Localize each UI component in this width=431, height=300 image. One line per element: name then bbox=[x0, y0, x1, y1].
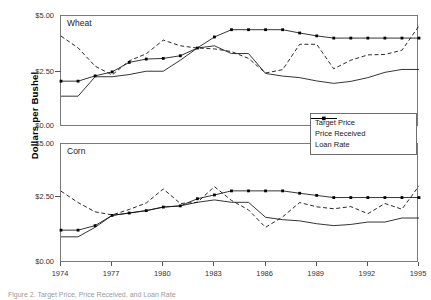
series-marker bbox=[401, 196, 404, 199]
xtick-mark-1977 bbox=[111, 262, 112, 266]
series-marker bbox=[366, 196, 369, 199]
ytick-wheat-0: $0.00 bbox=[18, 121, 54, 130]
series-marker bbox=[281, 189, 284, 192]
ytick-mark-wheat-2-5 bbox=[55, 71, 61, 72]
series-marker bbox=[332, 37, 335, 40]
legend-item-loan-rate: Loan Rate bbox=[315, 139, 411, 150]
chart-panel-wheat: Wheat bbox=[60, 15, 418, 126]
legend-label-price-received: Price Received bbox=[315, 129, 365, 138]
series-line-target-price bbox=[61, 191, 419, 230]
series-marker bbox=[60, 229, 63, 232]
series-marker bbox=[349, 196, 352, 199]
series-line-price-received bbox=[61, 26, 419, 75]
series-marker bbox=[315, 34, 318, 37]
xtick-label-1983: 1983 bbox=[196, 269, 230, 278]
series-marker bbox=[111, 70, 114, 73]
xtick-label-1995: 1995 bbox=[401, 269, 431, 278]
legend-item-price-received: Price Received bbox=[315, 128, 411, 139]
series-marker bbox=[264, 189, 267, 192]
corn-series-svg bbox=[61, 144, 419, 263]
xtick-label-1974: 1974 bbox=[43, 269, 77, 278]
xtick-mark-1974 bbox=[60, 262, 61, 266]
series-marker bbox=[77, 80, 80, 83]
series-marker bbox=[315, 194, 318, 197]
xtick-label-1989: 1989 bbox=[299, 269, 333, 278]
series-marker bbox=[145, 58, 148, 61]
series-line-loan-rate bbox=[61, 46, 419, 96]
xtick-mark-1995 bbox=[418, 262, 419, 266]
series-marker bbox=[247, 189, 250, 192]
series-marker bbox=[298, 32, 301, 35]
series-marker bbox=[384, 37, 387, 40]
series-marker bbox=[77, 229, 80, 232]
chart-panel-corn: Corn bbox=[60, 143, 418, 262]
ytick-wheat-2-5: $2.50 bbox=[18, 67, 54, 76]
ytick-corn-5: $5.00 bbox=[18, 139, 54, 148]
series-marker bbox=[281, 28, 284, 31]
xtick-label-1992: 1992 bbox=[350, 269, 384, 278]
series-line-price-received bbox=[61, 186, 419, 227]
series-marker bbox=[230, 189, 233, 192]
xtick-mark-1992 bbox=[367, 262, 368, 266]
ytick-corn-2-5: $2.50 bbox=[18, 192, 54, 201]
xtick-label-1977: 1977 bbox=[94, 269, 128, 278]
series-marker bbox=[298, 192, 301, 195]
series-marker bbox=[196, 197, 199, 200]
xtick-label-1986: 1986 bbox=[248, 269, 282, 278]
figure-root: Dollars per Bushel Wheat Corn $5.00 $2.5… bbox=[0, 0, 431, 300]
series-marker bbox=[366, 37, 369, 40]
series-marker bbox=[230, 28, 233, 31]
series-marker bbox=[213, 36, 216, 39]
series-marker bbox=[247, 28, 250, 31]
series-marker bbox=[60, 80, 63, 83]
series-marker bbox=[349, 37, 352, 40]
ytick-wheat-5: $5.00 bbox=[18, 11, 54, 20]
ytick-corn-0: $0.00 bbox=[18, 257, 54, 266]
figure-caption: Figure 2. Target Price, Price Received, … bbox=[8, 291, 428, 300]
series-marker bbox=[162, 57, 165, 60]
legend-key-solid-icon bbox=[311, 114, 337, 123]
xtick-mark-1986 bbox=[265, 262, 266, 266]
series-line-loan-rate bbox=[61, 200, 419, 237]
xtick-mark-1980 bbox=[162, 262, 163, 266]
xtick-label-1980: 1980 bbox=[145, 269, 179, 278]
series-marker bbox=[401, 37, 404, 40]
series-marker bbox=[264, 28, 267, 31]
legend-label-loan-rate: Loan Rate bbox=[315, 140, 350, 149]
ytick-mark-corn-2-5 bbox=[55, 196, 61, 197]
xtick-mark-1983 bbox=[213, 262, 214, 266]
series-marker bbox=[213, 194, 216, 197]
series-marker bbox=[418, 37, 421, 40]
wheat-series-svg bbox=[61, 16, 419, 127]
xtick-mark-1989 bbox=[316, 262, 317, 266]
chart-legend: Target Price Price Received Loan Rate bbox=[310, 113, 417, 155]
series-marker bbox=[384, 196, 387, 199]
series-marker bbox=[332, 196, 335, 199]
series-marker bbox=[179, 54, 182, 57]
series-marker bbox=[418, 196, 421, 199]
